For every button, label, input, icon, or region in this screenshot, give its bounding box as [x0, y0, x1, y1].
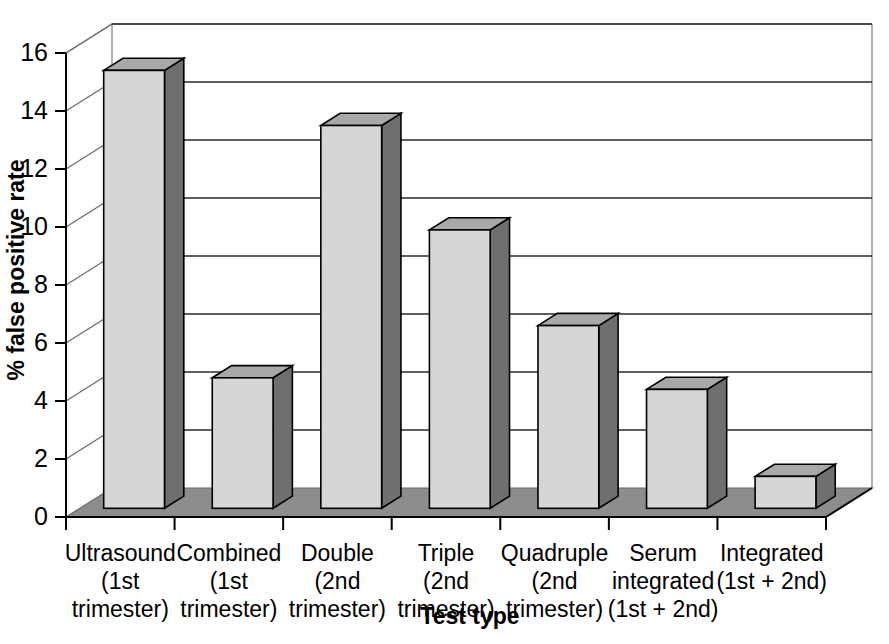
- bar-1: [104, 58, 184, 508]
- bar-front-face: [755, 476, 816, 508]
- x-tick-label: (1st + 2nd): [608, 596, 719, 622]
- x-tick-label: Integrated: [720, 540, 824, 566]
- bar-front-face: [429, 230, 490, 508]
- bar-front-face: [212, 378, 273, 509]
- x-tick-label: (1st: [101, 568, 140, 594]
- y-tick-label: 0: [34, 502, 48, 530]
- y-tick-label: 8: [34, 270, 48, 298]
- bar-3: [321, 113, 401, 508]
- x-axis-title: Test type: [420, 603, 519, 629]
- y-tick-label: 14: [20, 96, 48, 124]
- bar-side-face: [273, 366, 292, 509]
- chart-container: 0246810121416 Ultrasound(1sttrimester)Co…: [0, 0, 889, 644]
- bar-side-face: [164, 58, 183, 508]
- x-tick-label: Serum: [629, 540, 697, 566]
- y-axis: [55, 53, 66, 517]
- y-tick-label: 16: [20, 38, 48, 66]
- y-tick-label: 4: [34, 386, 48, 414]
- x-tick-label: Quadruple: [501, 540, 608, 566]
- x-tick-label: trimester): [289, 596, 386, 622]
- x-tick-label: (2nd: [423, 568, 469, 594]
- x-tick-label: (1st: [210, 568, 249, 594]
- x-tick-label: Triple: [418, 540, 475, 566]
- bar-front-face: [538, 326, 599, 509]
- x-tick-label: (2nd: [532, 568, 578, 594]
- bar-side-face: [382, 113, 401, 508]
- bar-2: [212, 366, 292, 509]
- x-tick-label: trimester): [180, 596, 277, 622]
- bar-front-face: [104, 70, 165, 508]
- bar-chart-3d: 0246810121416 Ultrasound(1sttrimester)Co…: [0, 0, 889, 644]
- bar-7: [755, 464, 835, 508]
- x-tick-label: Ultrasound: [65, 540, 176, 566]
- x-tick-label: trimester): [506, 596, 603, 622]
- bar-front-face: [321, 126, 382, 509]
- bar-side-face: [490, 218, 509, 509]
- bar-side-face: [599, 313, 618, 508]
- x-tick-label: integrated: [612, 568, 714, 594]
- bar-6: [647, 377, 727, 508]
- bar-side-face: [707, 377, 726, 508]
- y-tick-label: 2: [34, 444, 48, 472]
- x-tick-label: (2nd: [314, 568, 360, 594]
- x-tick-label: Double: [301, 540, 374, 566]
- x-tick-label: trimester): [72, 596, 169, 622]
- x-tick-label: Combined: [176, 540, 281, 566]
- bar-5: [538, 313, 618, 508]
- x-tick-label: (1st + 2nd): [716, 568, 827, 594]
- y-tick-label: 6: [34, 328, 48, 356]
- bar-front-face: [647, 389, 708, 508]
- bar-4: [429, 218, 509, 509]
- y-axis-title: % false positive rate: [3, 159, 29, 380]
